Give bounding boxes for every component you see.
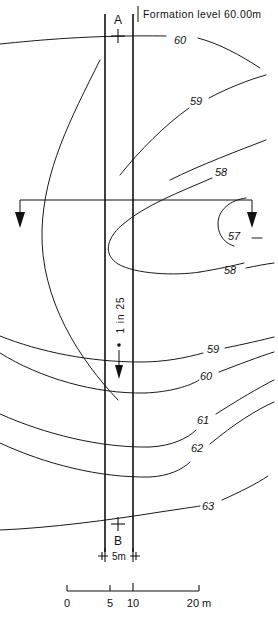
drawing-canvas: Formation level 60.00m A B 5m 1 in 25 60… <box>0 0 278 621</box>
contour-line-59-upper <box>120 108 189 175</box>
contour-line-59-reentrant <box>42 60 118 400</box>
contour-line-58-hook <box>108 178 212 274</box>
formation-level-label: Formation level 60.00m <box>143 8 262 20</box>
contour-line-60-lower-tail <box>219 352 274 372</box>
section-arrow-left-head <box>15 212 25 228</box>
contour-line-63-tail <box>222 476 268 500</box>
contour-line-61 <box>0 414 196 447</box>
contour-line-58-tail <box>246 263 274 268</box>
contour-line-59-lower <box>0 336 203 362</box>
contour-line-60-top-right <box>198 38 260 68</box>
scale-label-5: 5 <box>107 597 113 609</box>
scale-label-10: 10 <box>127 597 139 609</box>
contour-line-59-upper-right <box>209 75 266 98</box>
scale-label-20: 20 m <box>187 597 211 609</box>
scale-label-0: 0 <box>64 597 70 609</box>
contour-label-59-upper: 59 <box>190 95 202 107</box>
road-width-dimension-label: 5m <box>112 551 126 562</box>
contour-label-63: 63 <box>202 500 215 512</box>
contour-label-58-lower: 58 <box>224 264 237 276</box>
contour-line-62 <box>0 443 190 477</box>
gradient-origin-dot <box>117 343 121 347</box>
contour-line-61-tail <box>216 380 274 414</box>
contour-label-58-upper: 58 <box>215 166 228 178</box>
contour-label-57: 57 <box>228 230 241 242</box>
contour-line-58-lower-right <box>200 263 244 272</box>
contour-line-60-lower <box>0 353 199 393</box>
contour-line-60-top-left <box>0 36 166 44</box>
gradient-label: 1 in 25 <box>115 296 126 333</box>
section-arrow-right-head <box>247 212 257 228</box>
contour-label-60-top: 60 <box>174 34 187 46</box>
contour-label-61: 61 <box>197 414 209 426</box>
gradient-arrow-head <box>115 365 123 379</box>
point-b-label: B <box>114 534 122 548</box>
contour-label-62: 62 <box>191 442 203 454</box>
contour-line-63 <box>0 506 200 530</box>
contour-line-62-tail <box>210 402 274 444</box>
contour-line-59-lower-tail <box>225 337 274 348</box>
point-a-label: A <box>114 13 122 27</box>
contour-label-60-lower: 60 <box>200 370 213 382</box>
contour-drawing: Formation level 60.00m A B 5m 1 in 25 60… <box>0 0 278 621</box>
contour-label-59-lower: 59 <box>207 343 219 355</box>
